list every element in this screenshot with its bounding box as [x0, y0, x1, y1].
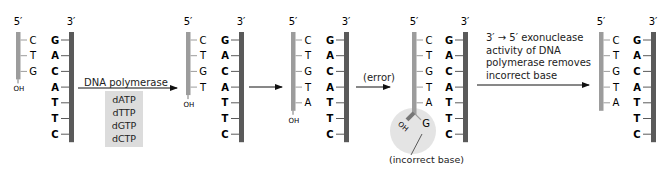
template-base: C	[51, 129, 58, 140]
template-base: T	[52, 97, 59, 108]
template-base: G	[326, 35, 334, 46]
new-base: C	[426, 35, 433, 46]
new-base: T	[304, 82, 312, 93]
oh-label: OH	[184, 101, 195, 109]
new-base: C	[613, 35, 620, 46]
exonuclease-line-2: activity of DNA	[486, 45, 591, 58]
template-base: T	[327, 97, 334, 108]
five-prime-label: 5′	[184, 16, 193, 27]
template-base: A	[221, 82, 229, 93]
template-strand	[239, 32, 244, 142]
template-base: C	[633, 129, 640, 140]
oh-label: OH	[289, 117, 300, 125]
incorrect-base-label: (incorrect base)	[389, 154, 464, 166]
new-base: G	[612, 66, 620, 77]
template-base: T	[52, 113, 59, 124]
new-base: T	[425, 82, 433, 93]
new-strand	[16, 32, 21, 79]
new-base: G	[29, 66, 37, 77]
template-base: G	[445, 35, 453, 46]
dntp-dgtp: dGTP	[112, 119, 137, 132]
panel-4: 5′3′GACATTCCTGTAOHG	[390, 16, 470, 154]
five-prime-label: 5′	[289, 16, 298, 27]
new-base: A	[305, 97, 312, 108]
template-base: A	[51, 82, 59, 93]
new-base: C	[200, 35, 207, 46]
template-base: T	[634, 97, 641, 108]
new-base: C	[305, 35, 312, 46]
template-strand	[651, 32, 656, 142]
template-base: C	[221, 129, 228, 140]
exonuclease-description: 3′ → 5′ exonuclease activity of DNA poly…	[486, 32, 591, 82]
new-base: G	[199, 66, 207, 77]
three-prime-label: 3′	[461, 16, 470, 27]
panel-3: 5′3′GACATTCCTGTAOH	[289, 16, 351, 142]
template-base: A	[326, 82, 334, 93]
template-strand	[344, 32, 349, 142]
oh-label: OH	[14, 85, 25, 93]
new-base: C	[30, 35, 37, 46]
five-prime-label: 5′	[14, 16, 23, 27]
template-base: A	[445, 82, 453, 93]
template-base: T	[634, 113, 641, 124]
panel-1: 5′3′GACATTCCTGOH	[14, 16, 76, 142]
new-base: T	[612, 50, 620, 61]
exonuclease-line-1: 3′ → 5′ exonuclease	[486, 32, 591, 45]
new-base: T	[199, 50, 207, 61]
new-base: T	[304, 50, 312, 61]
dntp-dttp: dTTP	[112, 106, 135, 119]
three-prime-label: 3′	[67, 16, 76, 27]
dntp-datp: dATP	[112, 93, 135, 106]
new-base: T	[29, 50, 37, 61]
template-base: A	[51, 50, 59, 61]
five-prime-label: 5′	[597, 16, 606, 27]
panel-2: 5′3′GACATTCCTGTOH	[184, 16, 246, 142]
new-base: T	[199, 82, 207, 93]
template-base: C	[326, 129, 333, 140]
template-base: C	[633, 66, 640, 77]
template-base: C	[445, 66, 452, 77]
template-base: A	[633, 82, 641, 93]
template-base: C	[326, 66, 333, 77]
template-base: A	[221, 50, 229, 61]
template-base: A	[326, 50, 334, 61]
exonuclease-line-4: incorrect base	[486, 70, 591, 83]
template-base: T	[446, 113, 453, 124]
incorrect-base: G	[422, 118, 430, 129]
template-base: C	[51, 66, 58, 77]
new-base: A	[613, 97, 620, 108]
new-base: T	[612, 82, 620, 93]
panel-5: 5′3′GACATTCCTGTA	[597, 16, 658, 142]
new-base: T	[425, 50, 433, 61]
three-prime-label: 3′	[649, 16, 658, 27]
template-base: T	[327, 113, 334, 124]
dntp-box: dATP dTTP dGTP dCTP	[105, 91, 143, 147]
template-base: G	[51, 35, 59, 46]
template-base: A	[445, 50, 453, 61]
template-base: T	[222, 97, 229, 108]
new-base: A	[426, 97, 433, 108]
template-base: A	[633, 50, 641, 61]
new-base: G	[304, 66, 312, 77]
template-base: C	[445, 129, 452, 140]
template-strand	[69, 32, 74, 142]
dntp-dctp: dCTP	[112, 132, 136, 145]
dna-polymerase-label: DNA polymerase	[84, 77, 168, 89]
new-strand	[291, 32, 296, 111]
template-base: G	[221, 35, 229, 46]
template-base: T	[222, 113, 229, 124]
error-label: (error)	[363, 72, 395, 84]
three-prime-label: 3′	[342, 16, 351, 27]
new-strand	[599, 32, 604, 111]
exonuclease-line-3: polymerase removes	[486, 57, 591, 70]
template-strand	[463, 32, 468, 142]
new-base: G	[425, 66, 433, 77]
template-base: G	[633, 35, 641, 46]
five-prime-label: 5′	[410, 16, 419, 27]
template-base: C	[221, 66, 228, 77]
three-prime-label: 3′	[237, 16, 246, 27]
new-strand	[412, 32, 417, 115]
new-strand	[186, 32, 191, 95]
template-base: T	[446, 97, 453, 108]
